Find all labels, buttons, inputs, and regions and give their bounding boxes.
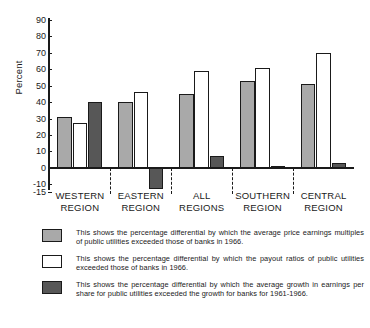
x-axis-group-label-line2: REGION: [118, 202, 164, 214]
legend-entry-price-earnings: This shows the percentage differential b…: [42, 228, 364, 246]
legend-entry-label: This shows the percentage differential b…: [76, 280, 364, 298]
x-axis-group-label-line1: CENTRAL: [301, 190, 347, 202]
x-axis-group-label-1: WESTERNREGION: [55, 190, 104, 213]
bar-payout-ratios-5: [316, 53, 331, 168]
gray-swatch: [42, 229, 62, 242]
x-axis-group-label-line1: ALL: [179, 190, 224, 202]
x-axis-group-label-line1: WESTERN: [55, 190, 104, 202]
bar-earnings-per-share-growth-5: [332, 163, 347, 168]
bar-chart-figure: Percent 9080706050403020100-10-15 WESTER…: [0, 0, 370, 328]
bar-price-earnings-multiples-2: [118, 102, 133, 168]
legend-entry-label: This shows the percentage differential b…: [76, 254, 364, 272]
x-axis-group-label-2: EASTERNREGION: [118, 190, 164, 213]
x-axis-group-label-4: SOUTHERNREGION: [235, 190, 290, 213]
x-axis-group-label-line2: REGION: [55, 202, 104, 214]
x-axis-category-labels: WESTERNREGIONEASTERNREGIONALLREGIONSSOUT…: [0, 190, 370, 222]
legend-entry-eps-growth: This shows the percentage differential b…: [42, 280, 364, 298]
plot-area: Percent 9080706050403020100-10-15 WESTER…: [0, 0, 370, 222]
x-axis-group-label-line2: REGIONS: [179, 202, 224, 214]
x-axis-group-label-line2: REGION: [301, 202, 347, 214]
bar-price-earnings-multiples-1: [57, 117, 72, 168]
x-axis-group-label-line1: SOUTHERN: [235, 190, 290, 202]
bar-price-earnings-multiples-4: [240, 81, 255, 168]
dark-gray-swatch: [42, 281, 62, 294]
bar-payout-ratios-1: [73, 123, 88, 167]
bar-earnings-per-share-growth-4: [271, 166, 286, 168]
x-axis-group-label-line1: EASTERN: [118, 190, 164, 202]
bar-payout-ratios-3: [194, 71, 209, 168]
bar-payout-ratios-4: [255, 68, 270, 168]
bar-payout-ratios-2: [134, 92, 149, 168]
legend-entry-payout-ratios: This shows the percentage differential b…: [42, 254, 364, 272]
x-axis-group-label-5: CENTRALREGION: [301, 190, 347, 213]
x-axis-group-label-line2: REGION: [235, 202, 290, 214]
white-swatch: [42, 255, 62, 268]
bar-earnings-per-share-growth-3: [210, 156, 225, 167]
bar-price-earnings-multiples-3: [179, 94, 194, 168]
bars-layer: [0, 0, 370, 200]
bar-earnings-per-share-growth-2: [149, 168, 164, 189]
bar-price-earnings-multiples-5: [301, 84, 316, 168]
legend-entry-label: This shows the percentage differential b…: [76, 228, 364, 246]
bar-earnings-per-share-growth-1: [88, 102, 103, 168]
x-axis-group-label-3: ALLREGIONS: [179, 190, 224, 213]
